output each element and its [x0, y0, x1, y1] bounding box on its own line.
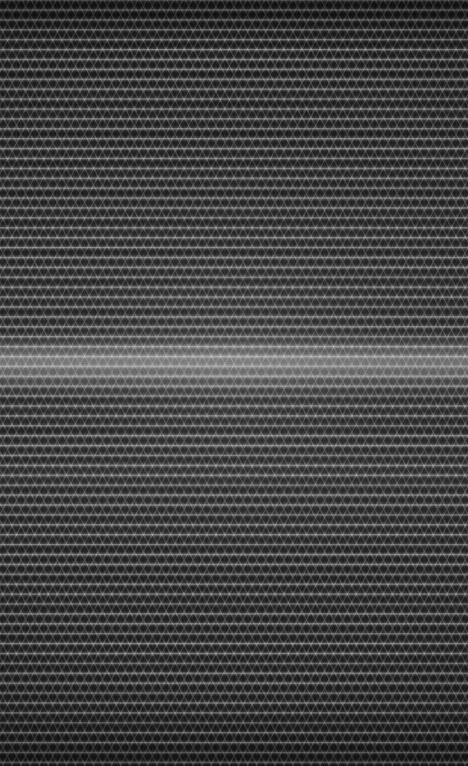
secondary-sheen-layer: [0, 0, 468, 766]
grain-noise-svg: [0, 0, 468, 766]
diamond-lattice-threads-layer: [0, 0, 468, 766]
fabric-macro-photograph: Close-up macro photograph of dark charco…: [0, 0, 468, 766]
row-shadow-variation-layer: [0, 0, 468, 766]
film-grain-layer: [0, 0, 468, 766]
specular-highlight-lateral-falloff: [0, 0, 468, 766]
specular-highlight-band: [0, 0, 468, 766]
lens-vignette-layer: [0, 0, 468, 766]
image-alt-text: Close-up macro photograph of dark charco…: [0, 0, 1, 1]
horizontal-knit-rows-layer: [0, 0, 468, 766]
vertical-wale-texture-layer: [0, 0, 468, 766]
edge-falloff-layer: [0, 0, 468, 766]
fine-mesh-threads-layer: [0, 0, 468, 766]
fabric-base-tone-layer: [0, 0, 468, 766]
